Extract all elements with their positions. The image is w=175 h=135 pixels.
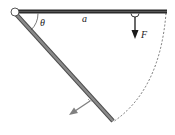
rod-rotation-diagram: θ a F <box>0 0 175 135</box>
length-label: a <box>82 13 87 24</box>
angle-arc <box>31 14 38 31</box>
inclined-rod <box>15 13 113 121</box>
angle-label: θ <box>40 17 45 28</box>
reaction-arrow <box>69 99 92 115</box>
force-arrow <box>131 14 139 40</box>
horizontal-rod <box>17 10 167 14</box>
swept-arc <box>113 13 166 122</box>
force-label: F <box>140 29 148 40</box>
pivot-icon <box>11 8 19 16</box>
